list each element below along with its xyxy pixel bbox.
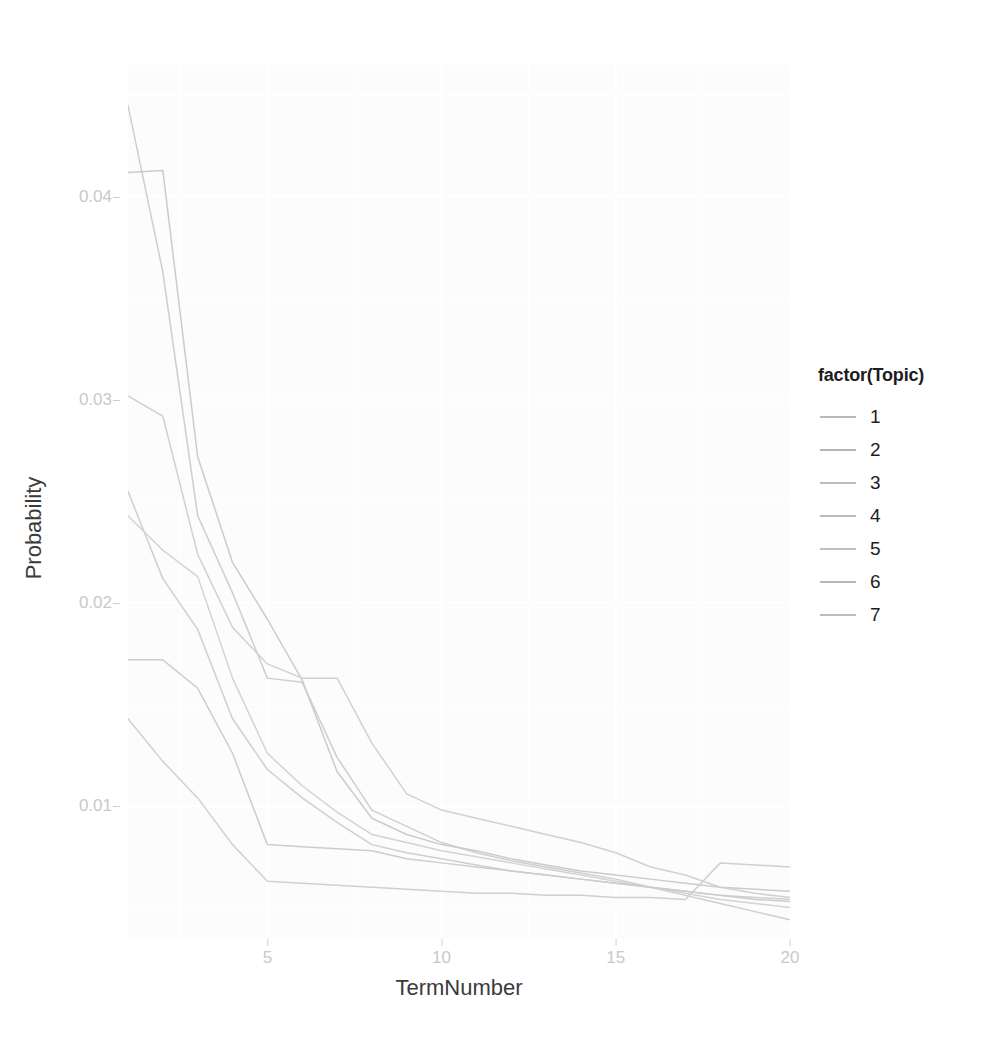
legend-item-label: 1 bbox=[870, 406, 881, 428]
y-tick-mark bbox=[113, 806, 120, 807]
x-tick-mark bbox=[616, 939, 617, 946]
y-tick-label: 0.02 bbox=[79, 593, 112, 613]
legend-item-7[interactable]: 7 bbox=[818, 598, 968, 631]
chart-root: Probability 0.010.020.030.04 5101520 Ter… bbox=[0, 0, 985, 1056]
legend-line-icon bbox=[818, 573, 858, 591]
series-line-1 bbox=[128, 106, 790, 920]
series-line-6 bbox=[128, 660, 790, 902]
plot-panel bbox=[128, 65, 790, 938]
legend-item-4[interactable]: 4 bbox=[818, 499, 968, 532]
series-line-2 bbox=[128, 171, 790, 892]
x-tick-label: 5 bbox=[263, 948, 272, 968]
x-tick-label: 20 bbox=[781, 948, 800, 968]
legend-item-6[interactable]: 6 bbox=[818, 565, 968, 598]
x-tick-mark bbox=[442, 939, 443, 946]
series-line-7 bbox=[128, 719, 790, 900]
legend-item-label: 6 bbox=[870, 571, 881, 593]
x-tick-mark bbox=[790, 939, 791, 946]
legend-line-icon bbox=[818, 441, 858, 459]
legend-item-5[interactable]: 5 bbox=[818, 532, 968, 565]
legend-item-label: 2 bbox=[870, 439, 881, 461]
legend-item-label: 4 bbox=[870, 505, 881, 527]
legend-item-label: 7 bbox=[870, 604, 881, 626]
series-line-3 bbox=[128, 396, 790, 897]
legend-line-icon bbox=[818, 408, 858, 426]
legend-item-2[interactable]: 2 bbox=[818, 433, 968, 466]
y-tick-label: 0.01 bbox=[79, 796, 112, 816]
x-tick-label: 15 bbox=[606, 948, 625, 968]
y-tick-mark bbox=[113, 603, 120, 604]
legend-items: 1234567 bbox=[818, 400, 968, 631]
series-line-5 bbox=[128, 516, 790, 908]
x-axis-title: TermNumber bbox=[128, 975, 790, 1001]
legend-item-3[interactable]: 3 bbox=[818, 466, 968, 499]
series-lines bbox=[128, 65, 790, 938]
legend-item-label: 5 bbox=[870, 538, 881, 560]
legend-title: factor(Topic) bbox=[818, 365, 968, 386]
x-tick-label: 10 bbox=[432, 948, 451, 968]
legend-line-icon bbox=[818, 474, 858, 492]
legend-item-label: 3 bbox=[870, 472, 881, 494]
legend-line-icon bbox=[818, 540, 858, 558]
x-tick-mark bbox=[267, 939, 268, 946]
legend-line-icon bbox=[818, 507, 858, 525]
legend: factor(Topic) 1234567 bbox=[818, 365, 968, 631]
y-tick-mark bbox=[113, 400, 120, 401]
legend-item-1[interactable]: 1 bbox=[818, 400, 968, 433]
y-tick-mark bbox=[113, 197, 120, 198]
y-tick-label: 0.03 bbox=[79, 390, 112, 410]
legend-line-icon bbox=[818, 606, 858, 624]
y-tick-label: 0.04 bbox=[79, 187, 112, 207]
x-axis-ticks: 5101520 bbox=[128, 948, 790, 978]
y-axis-ticks: 0.010.020.030.04 bbox=[0, 65, 112, 938]
